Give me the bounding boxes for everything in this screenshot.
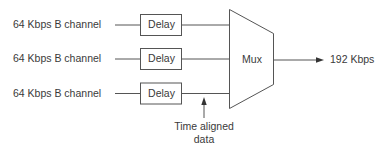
annotation-line-1: Time aligned: [164, 120, 244, 132]
mux-label: Mux: [230, 53, 274, 65]
input-label-2: 64 Kbps B channel: [13, 52, 101, 64]
annotation-arrowhead-icon: [201, 97, 206, 105]
delay-label-3: Delay: [141, 87, 182, 99]
output-label: 192 Kbps: [330, 53, 374, 65]
annotation-line-2: data: [164, 133, 244, 145]
input-label-3: 64 Kbps B channel: [13, 87, 101, 99]
input-label-1: 64 Kbps B channel: [13, 18, 101, 30]
delay-label-1: Delay: [141, 18, 182, 30]
output-arrowhead-icon: [316, 57, 324, 62]
delay-label-2: Delay: [141, 52, 182, 64]
